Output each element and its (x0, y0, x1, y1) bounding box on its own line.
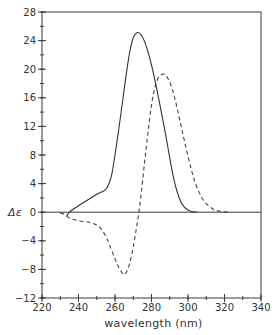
x-tick-label: 240 (69, 302, 88, 313)
dashed-series-line (60, 74, 228, 274)
series-layer (60, 33, 228, 275)
plot-frame (42, 12, 261, 298)
x-tick-label: 320 (215, 302, 234, 313)
plot-border (42, 12, 261, 298)
y-tick-label: −8 (21, 264, 36, 275)
y-tick-label: 20 (23, 64, 36, 75)
y-tick-label: 4 (30, 178, 36, 189)
x-axis: 220240260280300320340 (32, 294, 270, 313)
y-axis-title: Δε (7, 206, 22, 219)
x-axis-title: wavelength (nm) (104, 317, 202, 330)
y-axis: −12−8−40481216202428 (15, 7, 46, 304)
y-tick-label: 16 (23, 92, 36, 103)
y-tick-label: 8 (30, 150, 36, 161)
x-tick-label: 220 (32, 302, 51, 313)
y-tick-label: 12 (23, 121, 36, 132)
x-tick-label: 280 (142, 302, 161, 313)
x-tick-label: 260 (105, 302, 124, 313)
y-tick-label: −4 (21, 235, 36, 246)
cd-spectrum-chart: −12−8−40481216202428 2202402602803003203… (0, 0, 278, 335)
y-tick-label: 28 (23, 7, 36, 18)
y-tick-label: 0 (30, 207, 36, 218)
x-tick-label: 300 (178, 302, 197, 313)
solid-series-line (67, 33, 197, 217)
x-tick-label: 340 (251, 302, 270, 313)
y-tick-label: 24 (23, 35, 36, 46)
